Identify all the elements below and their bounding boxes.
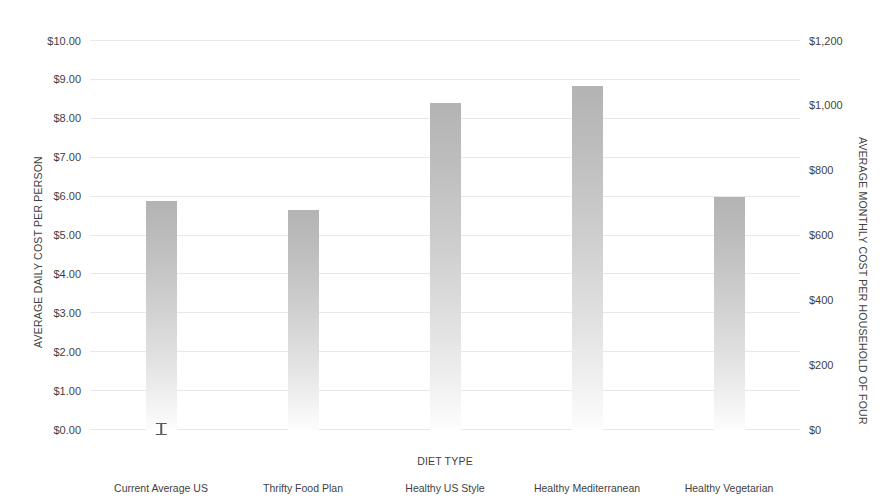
- y-tick-label-primary: $0.00: [53, 425, 81, 436]
- y-axis-secondary-title: AVERAGE MONTHLY COST PER HOUSEHOLD OF FO…: [857, 137, 869, 367]
- bar[interactable]: [146, 201, 177, 430]
- x-category-label: Healthy Vegetarian: [685, 482, 774, 494]
- y-tick-label-primary: $2.00: [53, 347, 81, 358]
- y-axis-primary-title: AVERAGE DAILY COST PER PERSON: [32, 152, 44, 352]
- y-tick-label-primary: $3.00: [53, 308, 81, 319]
- error-bar: [160, 423, 162, 436]
- y-tick-label-primary: $8.00: [53, 113, 81, 124]
- bar-slot: [232, 41, 374, 430]
- y-tick-label-primary: $7.00: [53, 152, 81, 163]
- bar[interactable]: [714, 197, 745, 430]
- x-category-label: Thrifty Food Plan: [263, 482, 343, 494]
- bar-slot: [658, 41, 800, 430]
- x-category-label: Healthy Mediterranean: [534, 482, 640, 494]
- y-tick-label-secondary: $800: [809, 165, 833, 176]
- bar[interactable]: [572, 86, 603, 430]
- y-tick-label-secondary: $1,200: [809, 36, 843, 47]
- y-tick-label-primary: $10.00: [47, 36, 81, 47]
- bar[interactable]: [430, 103, 461, 430]
- bar-slot: [90, 41, 232, 430]
- y-tick-label-secondary: $400: [809, 295, 833, 306]
- x-category-label: Healthy US Style: [405, 482, 484, 494]
- plot-area: $0.00$1.00$2.00$3.00$4.00$5.00$6.00$7.00…: [90, 41, 800, 430]
- y-tick-label-primary: $4.00: [53, 269, 81, 280]
- y-tick-label-secondary: $1,000: [809, 100, 843, 111]
- y-tick-label-secondary: $600: [809, 230, 833, 241]
- bar[interactable]: [288, 210, 319, 430]
- bar-slot: [516, 41, 658, 430]
- y-tick-label-primary: $1.00: [53, 386, 81, 397]
- y-tick-label-primary: $5.00: [53, 230, 81, 241]
- bar-slot: [374, 41, 516, 430]
- x-category-label: Current Average US: [114, 482, 208, 494]
- y-tick-label-secondary: $0: [809, 425, 821, 436]
- y-tick-label-secondary: $200: [809, 360, 833, 371]
- y-tick-label-primary: $6.00: [53, 191, 81, 202]
- y-tick-label-primary: $9.00: [53, 74, 81, 85]
- bar-chart: AVERAGE DAILY COST PER PERSON AVERAGE MO…: [0, 0, 890, 503]
- x-axis-title: DIET TYPE: [0, 455, 890, 467]
